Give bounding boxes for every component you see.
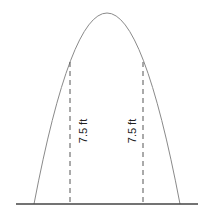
right-height-label: 7.5 ft bbox=[126, 119, 138, 143]
left-height-label: 7.5 ft bbox=[77, 119, 89, 143]
arch-diagram: 7.5 ft 7.5 ft bbox=[0, 0, 210, 216]
parabolic-arch bbox=[34, 13, 180, 204]
